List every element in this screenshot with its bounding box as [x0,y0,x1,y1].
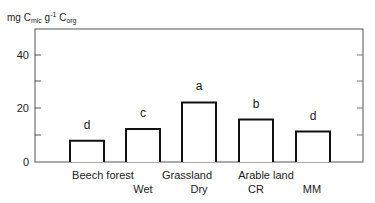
x-sub-label-cr: CR [248,183,264,195]
x-sub-label-mm: MM [303,183,321,195]
bar-grassland-wet [126,129,160,162]
significance-letter: d [84,118,91,132]
y-axis-ticks-right [357,55,363,135]
x-group-label-grassland: Grassland [162,169,212,181]
bar-beech-forest [70,141,104,162]
bars [70,102,330,162]
y-axis-label: mg Cmic g-1 Corg [7,11,77,25]
significance-letter: b [253,97,260,111]
bar-arable-land-cr [239,120,273,162]
y-tick-label-0: 0 [23,156,29,168]
bar-chart: 40 20 0 mg Cmic g-1 Corg dcabd Beech for… [0,0,375,203]
x-sub-label-dry: Dry [190,183,208,195]
y-tick-label-40: 40 [17,49,29,61]
x-label-beech-forest: Beech forest [72,169,134,181]
significance-letter: a [196,79,203,93]
significance-letter: c [140,106,146,120]
bar-arable-land-mm [296,132,330,162]
x-group-label-arable-land: Arable land [238,169,294,181]
significance-letter: d [310,109,317,123]
x-sub-label-wet: Wet [133,183,152,195]
y-axis-ticks [35,55,41,135]
y-tick-label-20: 20 [17,102,29,114]
bar-grassland-dry [182,102,216,162]
